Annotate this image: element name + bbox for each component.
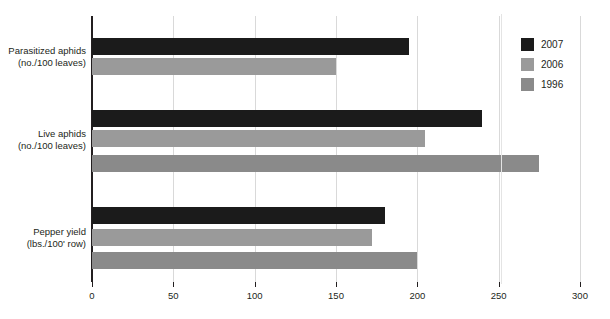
gridline [580,16,581,282]
legend-item-2007[interactable]: 2007 [521,34,563,54]
category-label-line2: (no./100 leaves) [18,140,86,152]
x-axis-tick [255,282,256,287]
legend-label: 2007 [541,39,563,50]
legend-divider [501,14,502,284]
x-axis-tick [336,282,337,287]
legend-label: 2006 [541,59,563,70]
category-label-line1: Parasitized aphids [8,45,86,56]
x-axis-tick-label: 250 [491,290,507,301]
legend-item-2006[interactable]: 2006 [521,54,563,74]
legend-item-1996[interactable]: 1996 [521,74,563,94]
bar-2006-group0 [92,58,336,75]
category-label-line1: Pepper yield [33,226,86,237]
x-axis-tick-label: 50 [168,290,179,301]
legend-swatch-icon [521,38,534,51]
figure-container: Parasitized aphids (no./100 leaves) Live… [0,0,610,319]
x-axis-tick-label: 0 [89,290,94,301]
bar-2007-group0 [92,38,409,55]
bar-1996-group2 [92,252,417,269]
bar-2007-group1 [92,110,482,127]
x-axis-tick [92,282,93,287]
x-axis-tick [499,282,500,287]
x-axis-tick-label: 150 [328,290,344,301]
x-axis-tick [417,282,418,287]
figure-caption [14,307,600,318]
bar-1996-group1 [92,155,539,172]
x-axis-tick-label: 100 [247,290,263,301]
bar-2007-group2 [92,207,385,224]
legend-swatch-icon [521,58,534,71]
category-label-pepper-yield: Pepper yield (lbs./100' row) [27,226,86,249]
gridline [417,16,418,282]
legend-swatch-icon [521,78,534,91]
bar-2006-group1 [92,130,425,147]
x-axis-tick [580,282,581,287]
category-label-line1: Live aphids [38,128,86,139]
x-axis-tick-label: 300 [572,290,588,301]
category-label-live-aphids: Live aphids (no./100 leaves) [18,128,86,151]
x-axis-tick-label: 200 [409,290,425,301]
bar-2006-group2 [92,229,372,246]
category-label-line2: (lbs./100' row) [27,238,86,250]
category-label-parasitized-aphids: Parasitized aphids (no./100 leaves) [8,45,86,68]
legend-label: 1996 [541,79,563,90]
gridline [499,16,500,282]
chart-legend: 200720061996 [521,34,563,94]
category-label-line2: (no./100 leaves) [8,57,86,69]
x-axis-tick [173,282,174,287]
